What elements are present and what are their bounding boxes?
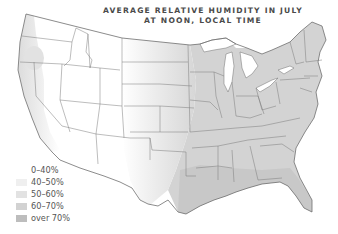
- legend-item-over-70: over 70%: [16, 212, 96, 224]
- legend-swatch: [16, 215, 27, 222]
- legend-item-0-40: 0–40%: [16, 164, 96, 176]
- legend-swatch: [16, 191, 27, 198]
- title-line-2: AT NOON, LOCAL TIME: [98, 16, 308, 26]
- legend-item-40-50: 40–50%: [16, 176, 96, 188]
- map-title: AVERAGE RELATIVE HUMIDITY IN JULY AT NOO…: [98, 6, 308, 26]
- title-line-1: AVERAGE RELATIVE HUMIDITY IN JULY: [98, 6, 308, 16]
- legend-label: 40–50%: [31, 176, 64, 188]
- legend-item-50-60: 50–60%: [16, 188, 96, 200]
- legend-label: 50–60%: [31, 188, 64, 200]
- legend-item-60-70: 60–70%: [16, 200, 96, 212]
- legend-swatch: [16, 179, 27, 186]
- legend-swatch: [16, 203, 27, 210]
- legend-label: over 70%: [31, 212, 70, 224]
- legend-label: 60–70%: [31, 200, 64, 212]
- legend: 0–40% 40–50% 50–60% 60–70% over 70%: [16, 164, 96, 224]
- legend-swatch: [16, 167, 27, 174]
- legend-label: 0–40%: [31, 164, 59, 176]
- humidity-map: AVERAGE RELATIVE HUMIDITY IN JULY AT NOO…: [0, 0, 338, 234]
